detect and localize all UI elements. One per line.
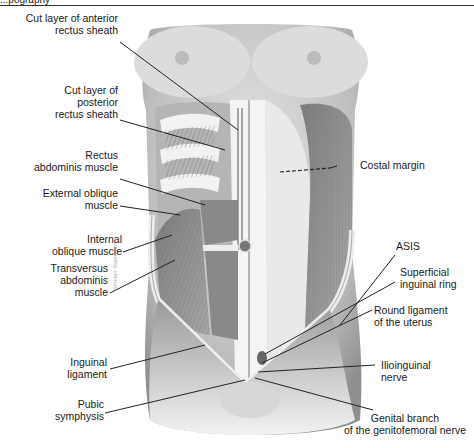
label-line: abdominis muscle bbox=[0, 161, 118, 173]
label-external-oblique: External oblique muscle bbox=[0, 187, 118, 211]
label-cut-posterior-rectus-sheath: Cut layer of posterior rectus sheath bbox=[0, 84, 118, 120]
label-superficial-inguinal-ring: Superficial inguinal ring bbox=[400, 266, 457, 290]
label-line: ASIS bbox=[396, 240, 420, 252]
label-line: Genital branch bbox=[335, 412, 474, 424]
label-line: nerve bbox=[381, 371, 431, 383]
label-line: posterior bbox=[0, 96, 118, 108]
label-line: External oblique bbox=[0, 187, 118, 199]
label-line: of the uterus bbox=[374, 316, 448, 328]
label-line: abdominis bbox=[0, 274, 108, 286]
label-line: Transversus bbox=[0, 262, 108, 274]
label-genital-branch: Genital branch of the genitofemoral nerv… bbox=[335, 412, 474, 436]
label-rectus-abdominis: Rectus abdominis muscle bbox=[0, 149, 118, 173]
label-asis: ASIS bbox=[396, 240, 420, 252]
label-line: rectus sheath bbox=[0, 108, 118, 120]
artist-watermark: Sinclair Stammers bbox=[112, 241, 118, 290]
label-ilioinguinal-nerve: Ilioinguinal nerve bbox=[381, 359, 431, 383]
label-inguinal-ligament: Inguinal ligament bbox=[0, 356, 107, 380]
label-line: Round ligament bbox=[374, 304, 448, 316]
label-line: ligament bbox=[0, 368, 107, 380]
label-line: inguinal ring bbox=[400, 278, 457, 290]
label-line: symphysis bbox=[0, 410, 104, 422]
label-internal-oblique: Internal oblique muscle bbox=[0, 233, 122, 257]
label-line: rectus sheath bbox=[0, 24, 118, 36]
label-line: Pubic bbox=[0, 398, 104, 410]
label-line: Superficial bbox=[400, 266, 457, 278]
label-round-ligament: Round ligament of the uterus bbox=[374, 304, 448, 328]
label-transversus-abdominis: Transversus abdominis muscle bbox=[0, 262, 108, 298]
label-line: Inguinal bbox=[0, 356, 107, 368]
label-line: Costal margin bbox=[360, 159, 425, 171]
label-line: Internal bbox=[0, 233, 122, 245]
label-line: Rectus bbox=[0, 149, 118, 161]
label-costal-margin: Costal margin bbox=[360, 159, 425, 171]
label-line: Cut layer of anterior bbox=[0, 12, 118, 24]
label-line: muscle bbox=[0, 286, 108, 298]
label-line: oblique muscle bbox=[0, 245, 122, 257]
label-line: Ilioinguinal bbox=[381, 359, 431, 371]
label-line: of the genitofemoral nerve bbox=[335, 424, 474, 436]
label-cut-anterior-rectus-sheath: Cut layer of anterior rectus sheath bbox=[0, 12, 118, 36]
label-pubic-symphysis: Pubic symphysis bbox=[0, 398, 104, 422]
label-line: Cut layer of bbox=[0, 84, 118, 96]
label-line: muscle bbox=[0, 199, 118, 211]
